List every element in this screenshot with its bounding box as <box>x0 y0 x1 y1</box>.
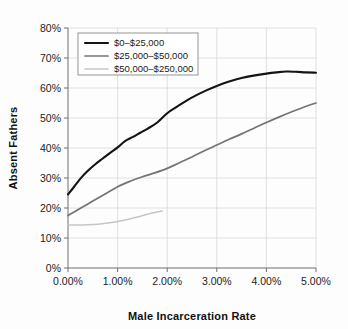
x-axis-title: Male Incarceration Rate <box>128 310 256 322</box>
y-tick-label: 0% <box>46 262 61 274</box>
series-line-1 <box>68 71 316 194</box>
x-tick-label: 5.00% <box>301 275 331 287</box>
line-chart: 0%10%20%30%40%50%60%70%80%0.00%1.00%2.00… <box>0 0 348 329</box>
y-tick-label: 40% <box>40 142 61 154</box>
y-tick-label: 20% <box>40 202 61 214</box>
x-tick-label: 3.00% <box>202 275 232 287</box>
chart-container: 0%10%20%30%40%50%60%70%80%0.00%1.00%2.00… <box>0 0 348 329</box>
series-line-3 <box>68 211 162 225</box>
y-tick-label: 60% <box>40 82 61 94</box>
x-tick-label: 1.00% <box>103 275 133 287</box>
legend-label-3: $50,000–$250,000 <box>114 63 193 74</box>
y-tick-label: 30% <box>40 172 61 184</box>
y-axis-title: Absent Fathers <box>7 107 19 190</box>
legend-label-2: $25,000–$50,000 <box>114 50 188 61</box>
legend-label-1: $0–$25,000 <box>114 37 164 48</box>
y-tick-label: 80% <box>40 22 61 34</box>
y-tick-label: 70% <box>40 52 61 64</box>
y-tick-label: 50% <box>40 112 61 124</box>
series-line-2 <box>68 103 316 216</box>
y-tick-label: 10% <box>40 232 61 244</box>
x-tick-label: 2.00% <box>152 275 182 287</box>
x-tick-label: 0.00% <box>53 275 83 287</box>
x-tick-label: 4.00% <box>252 275 282 287</box>
